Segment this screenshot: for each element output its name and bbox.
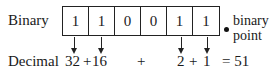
binary-point-line2: point — [233, 28, 269, 43]
binary-point-line1: binary — [233, 13, 269, 28]
down-arrow-icon — [101, 37, 102, 50]
bit-cell: 1 — [167, 7, 193, 35]
equals-result: = 51 — [222, 53, 249, 70]
down-arrow-icon — [74, 37, 75, 50]
bit-cell: 1 — [63, 7, 89, 35]
binary-label: Binary — [8, 12, 49, 29]
binary-point-label: binary point — [233, 13, 269, 43]
bit-cell: 0 — [115, 7, 141, 35]
bit-cell: 0 — [141, 7, 167, 35]
down-arrow-icon — [181, 37, 182, 50]
plus-sign: + — [83, 53, 91, 70]
term-16: 16 — [92, 53, 107, 70]
term-1: 1 — [203, 53, 211, 70]
bit-cell: 1 — [193, 7, 219, 35]
bit-cell: 1 — [89, 7, 115, 35]
binary-digit-row: 1 1 0 0 1 1 — [62, 6, 220, 36]
plus-sign: + — [137, 53, 145, 70]
term-2: 2 — [177, 53, 185, 70]
decimal-label: Decimal — [8, 53, 59, 70]
term-32: 32 — [65, 53, 80, 70]
plus-sign: + — [189, 53, 197, 70]
down-arrow-icon — [207, 37, 208, 50]
binary-point-dot-icon — [224, 27, 229, 32]
